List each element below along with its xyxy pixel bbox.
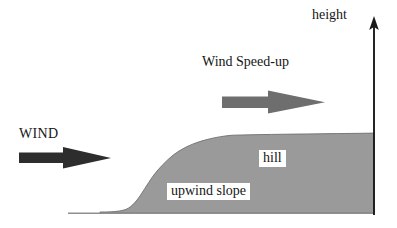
wind-arrow-head-icon <box>63 147 111 169</box>
wind-label: WIND <box>19 127 58 141</box>
height-axis-label: height <box>312 8 347 22</box>
hill-label: hill <box>259 150 286 167</box>
upwind-slope-label: upwind slope <box>167 183 250 200</box>
wind-speedup-arrow-shaft <box>222 97 272 109</box>
wind-arrow-shaft <box>19 153 66 164</box>
wind-arrow <box>19 147 111 169</box>
wind-speedup-arrow-head-icon <box>268 91 325 114</box>
hill-terrain-shape <box>100 133 374 213</box>
wind-speedup-label: Wind Speed-up <box>202 55 289 69</box>
wind-speedup-arrow <box>222 91 325 114</box>
diagram-canvas: height Wind Speed-up WIND hill upwind sl… <box>0 0 397 228</box>
